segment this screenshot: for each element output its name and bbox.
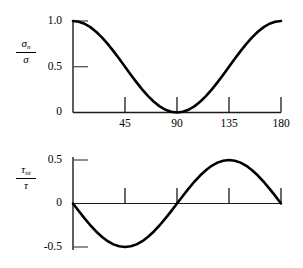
bottom-plot-y-axis-subscript: nt	[25, 169, 30, 177]
top-plot-xtick-label-135: 135	[212, 117, 246, 129]
top-plot-y-axis-subscript: n	[27, 43, 31, 51]
top-plot-ytick-label-0-5: 0.5	[32, 60, 62, 72]
bottom-plot-ytick-label-0: 0	[32, 196, 62, 208]
bottom-plot-ytick-label-0-5: 0.5	[32, 153, 62, 165]
stress-transformation-figure: σn σ 1.0 0.5 0 45 90 135 180 τnt τ 0.5 0…	[0, 0, 303, 268]
top-plot-group	[73, 21, 281, 113]
bottom-plot-y-axis-denominator: τ	[6, 179, 46, 192]
bottom-plot-y-axis-numerator: τnt	[16, 164, 36, 179]
top-plot-xtick-label-180: 180	[264, 117, 298, 129]
top-plot-ytick-label-1-0: 1.0	[32, 14, 62, 26]
bottom-plot-y-axis-label: τnt τ	[6, 164, 46, 192]
bottom-plot-group	[73, 157, 281, 250]
bottom-plot-ytick-label-neg-0-5: -0.5	[26, 240, 62, 252]
top-plot-y-axis-numerator: σn	[16, 38, 36, 53]
top-plot-xtick-label-90: 90	[160, 117, 194, 129]
top-plot-ytick-label-0: 0	[32, 105, 62, 117]
top-plot-xtick-label-45: 45	[108, 117, 142, 129]
